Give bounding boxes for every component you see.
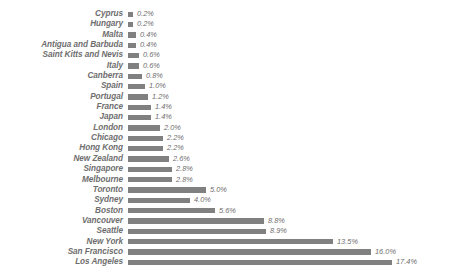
bar [128, 229, 266, 234]
chart-row: Malta0.4% [0, 30, 467, 40]
category-label: Toronto [0, 185, 123, 195]
bar [128, 136, 163, 141]
bar-area: 17.4% [128, 257, 417, 267]
chart-row: Chicago2.2% [0, 133, 467, 143]
bar-area: 2.6% [128, 154, 190, 164]
chart-row: Canberra0.8% [0, 71, 467, 81]
bar-area: 0.2% [128, 9, 154, 19]
bar [128, 22, 133, 27]
bar [128, 187, 206, 192]
chart-row: France1.4% [0, 102, 467, 112]
bar-area: 8.9% [128, 226, 287, 236]
chart-row: San Francisco16.0% [0, 247, 467, 257]
category-label: Japan [0, 112, 123, 122]
bar [128, 177, 172, 182]
chart-rows: Cyprus0.2%Hungary0.2%Malta0.4%Antigua an… [0, 9, 467, 268]
value-label: 1.4% [155, 112, 172, 122]
chart-row: Seattle8.9% [0, 226, 467, 236]
bar [128, 146, 163, 151]
chart-row: Hong Kong2.2% [0, 143, 467, 153]
value-label: 2.2% [167, 133, 184, 143]
bar [128, 53, 139, 58]
bar-area: 0.4% [128, 40, 157, 50]
category-label: Spain [0, 81, 123, 91]
bar-area: 0.4% [128, 30, 157, 40]
category-label: Hong Kong [0, 143, 123, 153]
value-label: 1.0% [149, 81, 166, 91]
bar [128, 12, 133, 17]
chart-row: London2.0% [0, 123, 467, 133]
category-label: Los Angeles [0, 257, 123, 267]
value-label: 17.4% [396, 257, 417, 267]
category-label: Hungary [0, 19, 123, 29]
chart-row: Saint Kitts and Nevis0.6% [0, 50, 467, 60]
bar [128, 125, 160, 130]
bar-area: 13.5% [128, 237, 358, 247]
value-label: 2.8% [176, 164, 193, 174]
chart-row: New Zealand2.6% [0, 154, 467, 164]
bar-area: 5.0% [128, 185, 227, 195]
bar-area: 2.2% [128, 133, 184, 143]
category-label: Vancouver [0, 216, 123, 226]
value-label: 8.8% [268, 216, 285, 226]
bar-area: 4.0% [128, 195, 211, 205]
bar-area: 5.6% [128, 206, 236, 216]
category-label: San Francisco [0, 247, 123, 257]
category-label: Canberra [0, 71, 123, 81]
bar [128, 115, 151, 120]
value-label: 1.2% [152, 92, 169, 102]
value-label: 0.6% [143, 61, 160, 71]
bar [128, 32, 136, 37]
value-label: 5.0% [210, 185, 227, 195]
value-label: 0.4% [140, 40, 157, 50]
bar-area: 0.6% [128, 50, 160, 60]
bar [128, 156, 169, 161]
bar-area: 0.8% [128, 71, 163, 81]
category-label: Chicago [0, 133, 123, 143]
value-label: 2.0% [164, 123, 181, 133]
category-label: Seattle [0, 226, 123, 236]
bar-area: 1.2% [128, 92, 169, 102]
bar [128, 249, 371, 254]
value-label: 0.2% [137, 9, 154, 19]
category-label: Melbourne [0, 175, 123, 185]
chart-row: Hungary0.2% [0, 19, 467, 29]
bar-area: 1.4% [128, 112, 172, 122]
chart-row: Boston5.6% [0, 206, 467, 216]
bar-area: 2.8% [128, 175, 193, 185]
bar-area: 16.0% [128, 247, 396, 257]
bar-area: 2.8% [128, 164, 193, 174]
value-label: 16.0% [375, 247, 396, 257]
value-label: 13.5% [337, 237, 358, 247]
bar [128, 74, 142, 79]
category-label: Portugal [0, 92, 123, 102]
bar [128, 105, 151, 110]
bar [128, 43, 136, 48]
value-label: 4.0% [194, 195, 211, 205]
category-label: Cyprus [0, 9, 123, 19]
value-label: 0.4% [140, 30, 157, 40]
chart-row: Vancouver8.8% [0, 216, 467, 226]
category-label: New Zealand [0, 154, 123, 164]
value-label: 2.6% [173, 154, 190, 164]
bar [128, 63, 139, 68]
bar [128, 84, 145, 89]
category-label: Sydney [0, 195, 123, 205]
chart-row: Los Angeles17.4% [0, 257, 467, 267]
value-label: 1.4% [155, 102, 172, 112]
bar-area: 8.8% [128, 216, 285, 226]
category-label: London [0, 123, 123, 133]
bar-chart: Cyprus0.2%Hungary0.2%Malta0.4%Antigua an… [0, 0, 467, 271]
bar-area: 0.6% [128, 61, 160, 71]
category-label: Saint Kitts and Nevis [0, 50, 123, 60]
value-label: 5.6% [219, 206, 236, 216]
bar [128, 218, 264, 223]
chart-row: Italy0.6% [0, 61, 467, 71]
category-label: Malta [0, 30, 123, 40]
chart-row: Antigua and Barbuda0.4% [0, 40, 467, 50]
bar-area: 0.2% [128, 19, 154, 29]
category-label: France [0, 102, 123, 112]
value-label: 2.2% [167, 143, 184, 153]
value-label: 0.2% [137, 19, 154, 29]
chart-row: Japan1.4% [0, 112, 467, 122]
